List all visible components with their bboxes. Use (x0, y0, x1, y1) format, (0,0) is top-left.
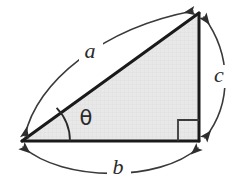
label-side-b: b (113, 154, 124, 179)
label-angle-theta: θ (80, 106, 93, 130)
right-triangle-figure: a b c θ (0, 0, 247, 189)
geometry-diagram-canvas: a b c θ (0, 0, 247, 189)
label-side-a: a (85, 38, 96, 63)
label-side-c: c (214, 62, 224, 87)
